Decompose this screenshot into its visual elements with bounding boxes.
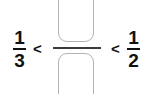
fraction-one-third-denominator: 3	[14, 50, 25, 70]
fraction-one-third: 1 3	[13, 28, 26, 70]
less-than-operator-right: <	[111, 41, 120, 56]
less-than-operator-left: <	[33, 41, 42, 56]
answer-fraction	[53, 0, 101, 94]
answer-denominator-input[interactable]	[58, 53, 94, 94]
answer-fraction-bar	[53, 47, 101, 49]
fraction-one-third-numerator: 1	[14, 28, 25, 48]
fraction-comparison-problem: 1 3 < < 1 2	[0, 0, 148, 94]
answer-numerator-input[interactable]	[58, 0, 94, 42]
fraction-one-half-numerator: 1	[128, 28, 139, 48]
fraction-one-half-denominator: 2	[128, 50, 139, 70]
fraction-one-half: 1 2	[127, 28, 140, 70]
